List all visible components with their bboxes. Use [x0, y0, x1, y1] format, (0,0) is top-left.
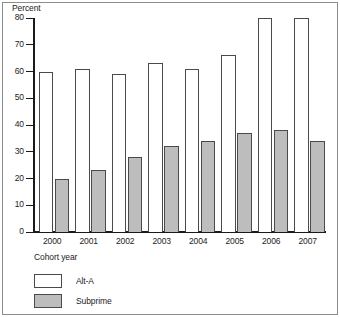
y-axis-tick	[26, 178, 34, 179]
x-axis-label-2000: 2000	[34, 236, 71, 246]
y-axis-tick	[26, 44, 34, 45]
legend-item-subprime: Subprime	[34, 292, 112, 309]
bar-alt-a-2007	[294, 18, 309, 232]
y-axis-tick-label: 20	[2, 174, 24, 183]
chart-figure: Percent 01020304050607080 20002001200220…	[0, 0, 340, 317]
x-axis-label-2004: 2004	[180, 236, 217, 246]
y-axis-tick-label: 30	[2, 147, 24, 156]
chart-legend: Alt-A Subprime	[34, 272, 112, 312]
y-axis-tick	[26, 151, 34, 152]
y-axis-tick-label: 70	[2, 40, 24, 49]
x-axis-label-2003: 2003	[144, 236, 181, 246]
bar-subprime-2002	[128, 157, 143, 232]
legend-item-alt-a: Alt-A	[34, 272, 112, 289]
bar-alt-a-2002	[112, 74, 127, 232]
legend-label-subprime: Subprime	[76, 296, 112, 306]
y-axis-tick-label: 50	[2, 93, 24, 102]
bar-subprime-2004	[201, 141, 216, 232]
bar-subprime-2001	[91, 170, 106, 232]
x-axis-label-2007: 2007	[290, 236, 327, 246]
bar-alt-a-2001	[75, 69, 90, 232]
x-axis-title: Cohort year	[34, 252, 77, 262]
x-axis-label-2005: 2005	[217, 236, 254, 246]
bar-alt-a-2006	[258, 18, 273, 232]
bar-subprime-2003	[164, 146, 179, 232]
y-axis-tick	[26, 205, 34, 206]
bar-subprime-2006	[274, 130, 289, 232]
gray-swatch-icon	[34, 294, 62, 308]
y-axis-tick-label: 80	[2, 13, 24, 22]
y-axis-tick	[26, 125, 34, 126]
x-axis-label-2006: 2006	[253, 236, 290, 246]
plot-area	[34, 18, 326, 232]
bar-alt-a-2000	[39, 72, 54, 233]
bar-subprime-2007	[310, 141, 325, 232]
y-axis-tick-label: 10	[2, 200, 24, 209]
x-axis-label-2002: 2002	[107, 236, 144, 246]
bar-subprime-2000	[55, 179, 70, 233]
white-swatch-icon	[34, 274, 62, 288]
y-axis-tick	[26, 18, 34, 19]
y-axis-tick-label: 0	[2, 227, 24, 236]
bar-subprime-2005	[237, 133, 252, 232]
y-axis-tick	[26, 232, 34, 233]
bar-alt-a-2003	[148, 63, 163, 232]
x-axis-label-2001: 2001	[71, 236, 108, 246]
y-axis-tick-label: 60	[2, 67, 24, 76]
legend-label-alt-a: Alt-A	[76, 276, 94, 286]
y-axis-tick	[26, 71, 34, 72]
bar-alt-a-2004	[185, 69, 200, 232]
y-axis-tick	[26, 98, 34, 99]
y-axis-tick-label: 40	[2, 120, 24, 129]
bar-alt-a-2005	[221, 55, 236, 232]
